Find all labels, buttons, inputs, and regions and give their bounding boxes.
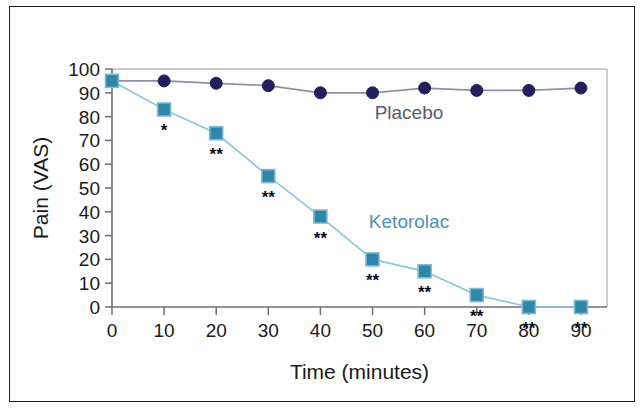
data-point bbox=[470, 289, 483, 302]
significance-marker: ** bbox=[210, 145, 224, 164]
y-tick-label: 20 bbox=[79, 249, 100, 270]
y-tick-label: 80 bbox=[79, 107, 100, 128]
plot-frame bbox=[112, 69, 607, 307]
axes bbox=[112, 69, 607, 307]
y-tick-label: 30 bbox=[79, 226, 100, 247]
x-tick-label: 50 bbox=[362, 320, 383, 341]
y-tick-label: 70 bbox=[79, 130, 100, 151]
significance-marker: ** bbox=[262, 188, 276, 207]
x-axis-ticks: 0102030405060708090 bbox=[107, 307, 592, 341]
y-axis-title: Pain (VAS) bbox=[29, 137, 52, 239]
data-point bbox=[574, 301, 587, 314]
figure-container: 0102030405060708090100010203040506070809… bbox=[0, 0, 644, 409]
series-annotation-placebo: Placebo bbox=[375, 102, 444, 123]
data-point bbox=[419, 82, 431, 94]
data-point bbox=[522, 301, 535, 314]
line-chart: 0102030405060708090100010203040506070809… bbox=[0, 0, 644, 409]
series-placebo bbox=[106, 75, 587, 99]
y-tick-label: 10 bbox=[79, 273, 100, 294]
y-tick-label: 50 bbox=[79, 178, 100, 199]
significance-marker: ** bbox=[314, 229, 328, 248]
data-point bbox=[158, 103, 171, 116]
series-annotation-ketorolac: Ketorolac bbox=[369, 211, 449, 232]
x-tick-label: 0 bbox=[107, 320, 118, 341]
data-point bbox=[314, 210, 327, 223]
significance-marker: ** bbox=[470, 307, 484, 326]
x-tick-label: 40 bbox=[310, 320, 331, 341]
y-tick-label: 90 bbox=[79, 83, 100, 104]
significance-marker: ** bbox=[522, 319, 536, 338]
series-line bbox=[112, 81, 581, 93]
data-point bbox=[210, 77, 222, 89]
data-point bbox=[471, 84, 483, 96]
series-line bbox=[112, 81, 581, 307]
data-point bbox=[106, 74, 119, 87]
x-tick-label: 60 bbox=[414, 320, 435, 341]
y-tick-label: 60 bbox=[79, 154, 100, 175]
significance-marker: * bbox=[161, 121, 168, 140]
chart-plot-area: 0102030405060708090100010203040506070809… bbox=[0, 0, 644, 409]
x-tick-label: 10 bbox=[154, 320, 175, 341]
data-point bbox=[367, 87, 379, 99]
x-tick-label: 30 bbox=[258, 320, 279, 341]
series-ketorolac: ***************** bbox=[106, 74, 588, 338]
significance-marker: ** bbox=[366, 271, 380, 290]
data-point bbox=[158, 75, 170, 87]
data-point bbox=[210, 127, 223, 140]
data-point bbox=[262, 170, 275, 183]
data-point bbox=[314, 87, 326, 99]
data-point bbox=[523, 84, 535, 96]
y-tick-label: 100 bbox=[68, 59, 100, 80]
y-tick-label: 40 bbox=[79, 202, 100, 223]
y-axis-ticks: 0102030405060708090100 bbox=[68, 59, 112, 318]
significance-marker: ** bbox=[574, 319, 588, 338]
x-tick-label: 20 bbox=[206, 320, 227, 341]
data-point bbox=[262, 80, 274, 92]
x-axis-title: Time (minutes) bbox=[290, 360, 429, 383]
significance-marker: ** bbox=[418, 283, 432, 302]
data-point bbox=[366, 253, 379, 266]
y-tick-label: 0 bbox=[89, 297, 100, 318]
data-point bbox=[575, 82, 587, 94]
data-point bbox=[418, 265, 431, 278]
